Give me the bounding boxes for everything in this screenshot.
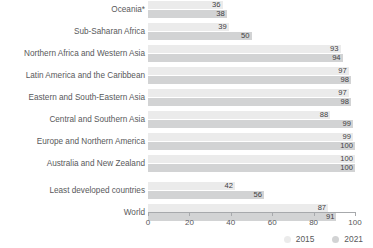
table-row: Australia and New Zealand100100 <box>0 154 373 173</box>
bar-track-2021: 94 <box>148 54 355 62</box>
table-row: Least developed countries4256 <box>0 181 373 200</box>
bar-group: 9798 <box>148 66 355 85</box>
category-label: Europe and Northern America <box>0 134 145 149</box>
category-label: World <box>0 205 145 220</box>
bar-track-2015: 97 <box>148 89 355 97</box>
bar-track-2015: 88 <box>148 111 355 119</box>
bar-group: 9394 <box>148 44 355 63</box>
bar-track-2015: 99 <box>148 133 355 141</box>
bar-value-label: 94 <box>321 52 341 63</box>
table-row: Oceania*3638 <box>0 0 373 19</box>
chart-rows: Oceania*3638Sub-Saharan Africa3950Northe… <box>0 0 373 225</box>
axis-tick-label: 60 <box>268 218 277 227</box>
category-label: Sub-Saharan Africa <box>0 24 145 39</box>
legend-item[interactable]: 2015 <box>284 234 315 244</box>
axis-tick-label: 0 <box>146 218 150 227</box>
bar-2021[interactable] <box>148 142 355 150</box>
table-row: Northern Africa and Western Asia9394 <box>0 44 373 63</box>
axis-tick <box>355 212 356 216</box>
bar-group: 100100 <box>148 154 355 173</box>
bar-track-2021: 38 <box>148 10 355 18</box>
category-label: Eastern and South-Eastern Asia <box>0 90 145 105</box>
bar-track-2021: 98 <box>148 98 355 106</box>
bar-2015[interactable] <box>148 204 328 212</box>
bar-2015[interactable] <box>148 155 355 163</box>
table-row: Europe and Northern America99100 <box>0 132 373 151</box>
bar-track-2015: 97 <box>148 67 355 75</box>
bar-value-label: 38 <box>205 8 225 19</box>
legend-item[interactable]: 2021 <box>332 234 363 244</box>
bar-track-2015: 100 <box>148 155 355 163</box>
axis-tick <box>231 212 232 216</box>
axis-tick <box>314 212 315 216</box>
legend-label: 2021 <box>344 234 363 244</box>
bar-track-2021: 98 <box>148 76 355 84</box>
legend-swatch-icon <box>284 236 291 243</box>
category-label: Central and Southern Asia <box>0 112 145 127</box>
axis-tick <box>148 212 149 216</box>
bar-value-label: 56 <box>242 189 262 200</box>
category-label: Northern Africa and Western Asia <box>0 46 145 61</box>
table-row: Central and Southern Asia8899 <box>0 110 373 129</box>
bar-2021[interactable] <box>148 164 355 172</box>
bar-group: 99100 <box>148 132 355 151</box>
axis-tick <box>272 212 273 216</box>
bar-group: 8899 <box>148 110 355 129</box>
category-label: Latin America and the Caribbean <box>0 68 145 83</box>
axis-tick-label: 80 <box>309 218 318 227</box>
bar-track-2021: 100 <box>148 142 355 150</box>
bar-2021[interactable] <box>148 98 351 106</box>
bar-value-label: 100 <box>333 162 353 173</box>
bar-value-label: 42 <box>213 180 233 191</box>
axis-tick-label: 100 <box>348 218 361 227</box>
axis-tick <box>189 212 190 216</box>
bar-group: 9798 <box>148 88 355 107</box>
table-row: Latin America and the Caribbean9798 <box>0 66 373 85</box>
bar-group: 3950 <box>148 22 355 41</box>
bar-2015[interactable] <box>148 89 349 97</box>
bar-2015[interactable] <box>148 67 349 75</box>
bar-value-label: 99 <box>331 118 351 129</box>
bar-track-2021: 56 <box>148 191 355 199</box>
bar-value-label: 88 <box>308 109 328 120</box>
x-axis: 020406080100 <box>148 212 355 213</box>
bar-2021[interactable] <box>148 76 351 84</box>
bar-track-2015: 36 <box>148 1 355 9</box>
bar-group: 3638 <box>148 0 355 19</box>
bar-2021[interactable] <box>148 54 343 62</box>
bar-value-label: 39 <box>207 21 227 32</box>
bar-track-2021: 91 <box>148 213 355 221</box>
table-row: Sub-Saharan Africa3950 <box>0 22 373 41</box>
axis-tick-label: 20 <box>185 218 194 227</box>
bar-value-label: 98 <box>329 96 349 107</box>
bar-2015[interactable] <box>148 133 353 141</box>
bar-track-2015: 39 <box>148 23 355 31</box>
bar-track-2021: 100 <box>148 164 355 172</box>
bar-2021[interactable] <box>148 120 353 128</box>
bar-value-label: 98 <box>329 74 349 85</box>
bar-2015[interactable] <box>148 111 330 119</box>
legend-label: 2015 <box>296 234 315 244</box>
category-label: Least developed countries <box>0 183 145 198</box>
legend-swatch-icon <box>332 236 339 243</box>
chart-legend: 20152021 <box>0 233 373 245</box>
table-row: Eastern and South-Eastern Asia9798 <box>0 88 373 107</box>
bar-group: 4256 <box>148 181 355 200</box>
bar-2021[interactable] <box>148 213 336 221</box>
bar-2015[interactable] <box>148 45 341 53</box>
bar-value-label: 100 <box>333 140 353 151</box>
category-label: Australia and New Zealand <box>0 156 145 171</box>
bar-value-label: 50 <box>230 30 250 41</box>
category-label: Oceania* <box>0 2 145 17</box>
grouped-bar-chart: Oceania*3638Sub-Saharan Africa3950Northe… <box>0 0 373 248</box>
bar-track-2021: 99 <box>148 120 355 128</box>
bar-track-2021: 50 <box>148 32 355 40</box>
axis-tick-label: 40 <box>226 218 235 227</box>
